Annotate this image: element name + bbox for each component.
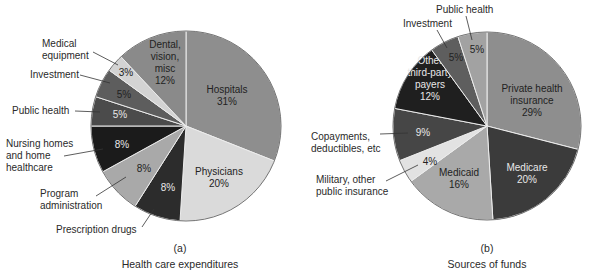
pie-charts-figure: Hospitals31%Physicians20%8%8%8%5%5%3%Den… [0,0,589,276]
pie-chart-sources-of-funds: Private healthinsurance29%Medicare20%Med… [393,32,581,220]
label-nursing-line2: and home [6,150,51,161]
label-public-health-b: Public health [436,4,493,15]
label-copayments-line2: deductibles, etc [311,143,381,154]
label-prescription-drugs: Prescription drugs [56,224,137,235]
label-investment-a: Investment [30,69,79,80]
slice-label-public-health: 5% [113,109,128,120]
label-military-line1: Military, other [316,174,376,185]
label-program-admin-line2: administration [40,200,102,211]
slice-label-private-health-insurance: Private health [501,83,562,94]
slice-label-hospitals: 31% [217,96,237,107]
slice-label-investment: 5% [117,89,132,100]
label-nursing-line1: Nursing homes [6,138,73,149]
slice-label-investment: 5% [449,52,464,63]
slice-label-medicaid: 16% [449,179,469,190]
label-medical-equipment-line2: equipment [42,50,89,61]
label-investment-b: Investment [403,18,452,29]
slice-label-prescription-drugs: 8% [161,182,176,193]
pie-chart-health-care-expenditures: Hospitals31%Physicians20%8%8%8%5%5%3%Den… [91,31,281,221]
label-copayments-line1: Copayments, [311,131,370,142]
caption-title-b: Sources of funds [448,258,527,270]
slice-label-program-administration: 8% [137,163,152,174]
slice-label-military-other-public-insurance: 4% [423,156,438,167]
slice-label-other-third-party-payers: 12% [420,91,440,102]
slice-label-hospitals: Hospitals [206,84,247,95]
label-medical-equipment-line1: Medical [42,38,76,49]
label-nursing-line3: healthcare [6,162,53,173]
slice-label-dental-vision-misc: misc [155,63,176,74]
slice-label-physicians: 20% [209,178,229,189]
slice-label-dental-vision-misc: vision, [151,51,179,62]
label-program-admin-line1: Program [40,188,78,199]
slice-label-dental-vision-misc: Dental, [149,39,181,50]
slice-label-copayments-deductibles-etc: 9% [416,127,431,138]
slice-label-medicaid: Medicaid [439,167,479,178]
slice-label-private-health-insurance: 29% [522,107,542,118]
caption-panel-a: (a) [174,242,187,254]
slice-label-other-third-party-payers: payers [415,79,445,90]
label-public-health-a: Public health [12,105,69,116]
slice-label-medicare: Medicare [506,162,548,173]
slice-label-public-health: 5% [470,44,485,55]
slice-label-medicare: 20% [517,174,537,185]
label-military-line2: public insurance [316,186,389,197]
slice-label-physicians: Physicians [195,166,243,177]
slice-label-nursing-homes-and-home-healthcare: 8% [115,139,130,150]
slice-label-dental-vision-misc: 12% [155,75,175,86]
caption-panel-b: (b) [481,242,494,254]
caption-title-a: Health care expenditures [122,258,239,270]
slice-label-private-health-insurance: insurance [510,95,554,106]
